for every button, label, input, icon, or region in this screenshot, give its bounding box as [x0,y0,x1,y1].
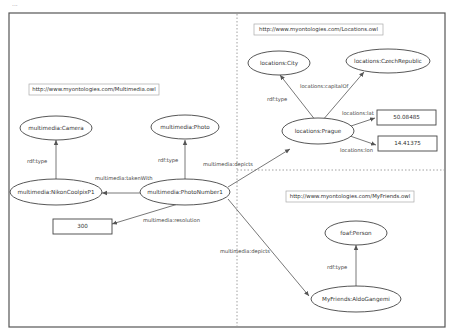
node-nikon-label: multimedia:NikonCoolpixP1 [17,189,94,196]
node-lon-value[interactable]: 14.41375 [378,136,437,151]
edge-label-lon: locations:lon [340,147,373,153]
edge-lat [351,118,375,126]
node-lat-value[interactable]: 50.08485 [377,110,436,125]
node-camera-label: multimedia:Camera [28,125,84,131]
node-aldo[interactable]: MyFriends:AldoGangemi [311,286,401,312]
rdf-ontology-diagram: ... http://www.myontologies.com/Multimed… [0,0,453,334]
edge-label-depicts-prague: multimedia:depicts [203,161,253,168]
namespace-myfriends: http://www.myontologies.com/MyFriends.ow… [286,191,414,202]
edge-label-prague-type: rdf:type [267,96,287,103]
node-foaf-person[interactable]: foaf:Person [325,221,387,245]
namespace-multimedia: http://www.myontologies.com/Multimedia.o… [29,84,159,95]
node-nikon[interactable]: multimedia:NikonCoolpixP1 [10,179,102,205]
cropped-top-text: ... [12,0,18,7]
node-camera[interactable]: multimedia:Camera [20,116,92,140]
node-prague-label: locations:Prague [295,128,342,135]
node-czech-label: locations:CzechRepublic [354,58,422,65]
node-lat-value-label: 50.08485 [393,114,420,120]
edge-label-capital-of: locations:capitalOf [300,83,349,90]
node-photo-label: multimedia:Photo [160,124,210,130]
node-lon-value-label: 14.41375 [394,140,421,146]
edge-label-lat: locations:lat [342,110,374,116]
node-city-label: locations:City [260,60,299,67]
node-photonumber[interactable]: multimedia:PhotoNumber1 [140,179,230,205]
edge-label-taken-with: multimedia:takenWith [95,175,152,181]
namespace-multimedia-label: http://www.myontologies.com/Multimedia.o… [32,86,155,93]
namespace-myfriends-label: http://www.myontologies.com/MyFriends.ow… [290,193,411,200]
node-prague[interactable]: locations:Prague [282,118,354,144]
node-photo[interactable]: multimedia:Photo [151,115,219,139]
node-city[interactable]: locations:City [248,51,310,75]
node-foaf-person-label: foaf:Person [340,230,372,236]
node-photonumber-label: multimedia:PhotoNumber1 [147,189,223,195]
edge-label-nikon-type: rdf:type [27,158,47,165]
node-resolution-value[interactable]: 300 [53,219,112,234]
namespace-locations: http://www.myontologies.com/Locations.ow… [254,24,383,35]
edge-label-resolution: multimedia:resolution [143,217,200,223]
edge-label-aldo-type: rdf:type [327,264,347,271]
edge-label-photo-type: rdf:type [158,157,178,164]
node-resolution-value-label: 300 [77,223,88,229]
namespace-locations-label: http://www.myontologies.com/Locations.ow… [259,26,378,33]
node-czech[interactable]: locations:CzechRepublic [346,49,430,73]
edge-label-depicts-aldo: multimedia:depicts [220,248,270,255]
node-aldo-label: MyFriends:AldoGangemi [322,296,390,303]
edge-lon [350,136,376,145]
